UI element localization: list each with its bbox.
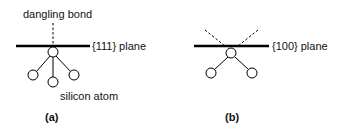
silicon-surface-diagram: dangling bond {111} plane silicon atom (… — [0, 0, 344, 131]
plane-100-label: {100} plane — [272, 40, 328, 52]
back-bond-right — [56, 56, 71, 72]
dangling-bond-line-left — [205, 30, 225, 46]
plane-111-label: {111} plane — [92, 40, 146, 52]
silicon-atom — [28, 70, 38, 80]
silicon-atom-label: silicon atom — [60, 90, 118, 102]
silicon-atom — [247, 68, 257, 78]
dangling-bond-line-right — [238, 30, 258, 46]
back-bond-left — [36, 56, 50, 72]
panel-b: {100} plane (b) — [194, 30, 328, 123]
surface-atom — [48, 47, 58, 57]
dangling-bond-label: dangling bond — [23, 8, 92, 20]
panel-a: dangling bond {111} plane silicon atom (… — [16, 8, 146, 123]
surface-atom — [226, 48, 236, 58]
panel-a-caption: (a) — [45, 111, 59, 123]
panel-b-caption: (b) — [225, 111, 239, 123]
silicon-atom — [69, 70, 79, 80]
back-bond-left — [214, 57, 228, 70]
silicon-atom — [48, 77, 58, 87]
silicon-atom — [206, 68, 216, 78]
back-bond-right — [235, 57, 249, 70]
